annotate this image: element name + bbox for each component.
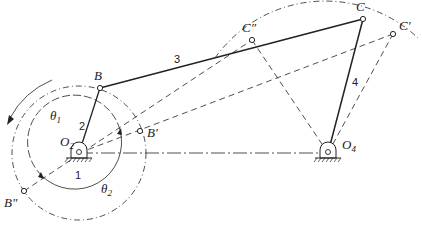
joint-b-prime bbox=[137, 128, 142, 133]
label-b-prime: B′ bbox=[147, 125, 158, 140]
theta1-arc bbox=[28, 95, 120, 176]
label-link-3: 3 bbox=[174, 53, 180, 65]
label-b-dprime: B″ bbox=[4, 195, 18, 210]
joint-b bbox=[97, 85, 102, 90]
joint-c-prime bbox=[390, 31, 395, 36]
link-3-coupler bbox=[100, 19, 363, 88]
joint-c-dprime bbox=[249, 37, 254, 42]
label-b: B bbox=[94, 68, 102, 83]
theta2-arc bbox=[42, 130, 122, 189]
label-theta1: θ1 bbox=[50, 108, 61, 125]
rocker-limit-c-dprime bbox=[252, 40, 328, 153]
label-link-1: 1 bbox=[75, 169, 81, 181]
label-c: C bbox=[356, 0, 365, 14]
rotation-arrow bbox=[10, 80, 52, 118]
label-link-4: 4 bbox=[352, 76, 358, 88]
label-theta2: θ2 bbox=[101, 181, 112, 198]
label-o2: O2 bbox=[60, 134, 74, 151]
label-o4: O4 bbox=[342, 137, 356, 154]
joint-c bbox=[360, 16, 365, 21]
joint-b-dprime bbox=[21, 188, 26, 193]
label-link-2: 2 bbox=[79, 120, 85, 132]
linkage-diagram: B B′ B″ C C′ C″ O2 O4 2 3 4 1 θ1 θ2 bbox=[0, 0, 422, 230]
ground-pivot-o4 bbox=[314, 142, 341, 162]
rocker-limit-c-prime bbox=[328, 34, 393, 153]
label-c-prime: C′ bbox=[399, 18, 411, 33]
label-c-dprime: C″ bbox=[242, 20, 257, 35]
